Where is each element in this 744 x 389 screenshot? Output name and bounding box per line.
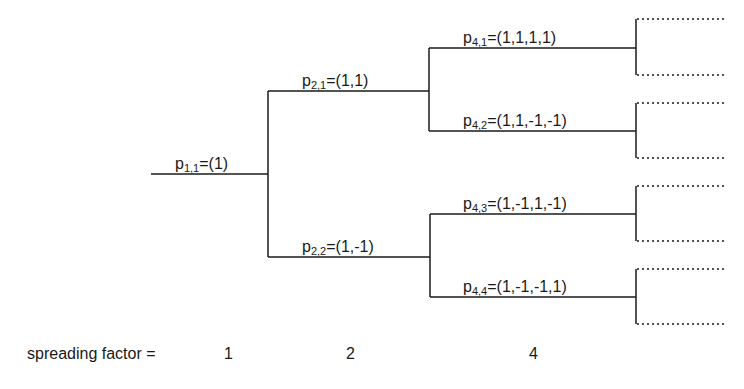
node-label-p11: p1,1=(1) (175, 156, 228, 172)
spreading-factor-1: 1 (224, 346, 233, 362)
node-label-p41: p4,1=(1,1,1,1) (463, 30, 556, 46)
code-tree-lines (0, 0, 744, 389)
node-label-p44: p4,4=(1,-1,-1,1) (463, 279, 567, 295)
spreading-factor-label: spreading factor = (27, 346, 156, 362)
spreading-factor-4: 4 (529, 346, 538, 362)
dotted-continuations (637, 19, 724, 324)
spreading-factor-2: 2 (346, 346, 355, 362)
node-label-p22: p2,2=(1,-1) (302, 239, 374, 255)
node-label-p43: p4,3=(1,-1,1,-1) (463, 196, 567, 212)
node-label-p42: p4,2=(1,1,-1,-1) (463, 113, 567, 129)
node-label-p21: p2,1=(1,1) (302, 73, 368, 89)
